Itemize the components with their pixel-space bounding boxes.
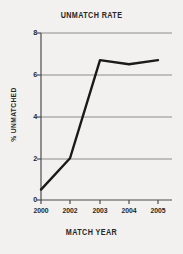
plot-area <box>0 0 183 254</box>
x-axis-ticks <box>41 200 158 204</box>
unmatch-rate-chart: UNMATCH RATE % UNMATCHED MATCH YEAR 8 6 … <box>0 0 183 254</box>
gridlines <box>41 33 172 159</box>
data-series-line <box>41 60 158 189</box>
